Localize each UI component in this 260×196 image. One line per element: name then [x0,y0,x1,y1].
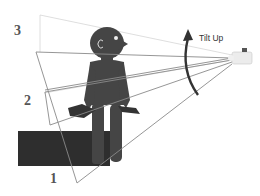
camera-icon [228,48,252,64]
diagram-canvas [0,0,260,196]
position-2-label: 2 [24,93,31,109]
sight-lines [40,15,232,93]
position-1-label: 1 [50,171,57,187]
figure-eye [114,36,118,40]
tilt-diagram: 3 2 1 Tilt Up [0,0,260,196]
tilt-up-arrow[interactable] [183,29,198,95]
position-3-label: 3 [14,23,21,39]
tilt-up-label: Tilt Up [199,33,223,43]
